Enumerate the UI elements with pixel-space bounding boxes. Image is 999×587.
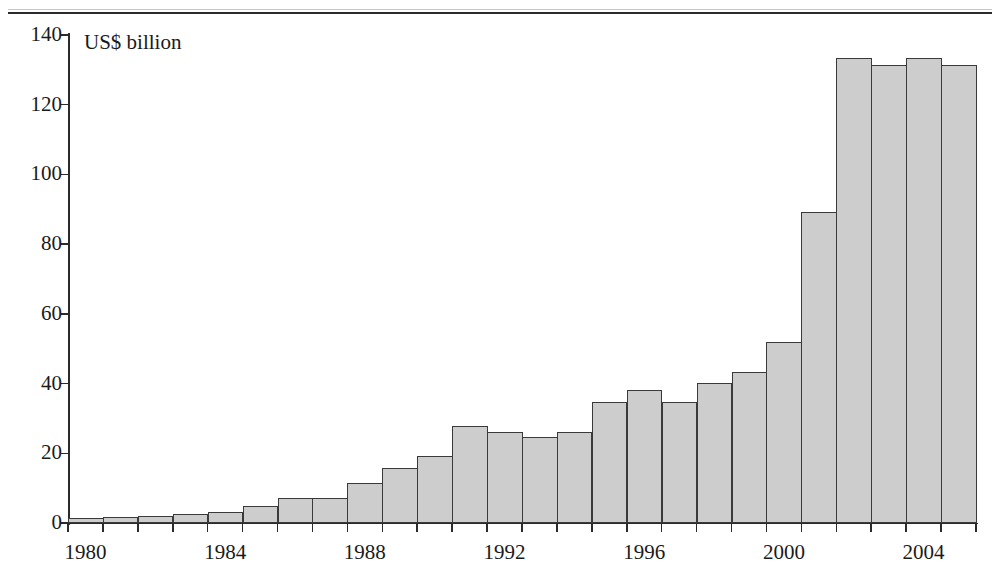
y-tick-mark <box>61 243 69 245</box>
y-tick-label: 120 <box>0 94 62 115</box>
x-tick-mark <box>382 523 384 532</box>
bar <box>522 437 558 523</box>
x-tick-label: 2004 <box>903 541 945 563</box>
x-tick-mark <box>801 523 803 532</box>
bar <box>417 456 453 523</box>
x-tick-mark <box>766 523 768 532</box>
bar <box>243 506 279 523</box>
x-tick-label: 1984 <box>204 541 246 563</box>
figure-container: US$ billion 020406080100120140 198019841… <box>0 0 999 587</box>
x-tick-mark <box>207 523 209 532</box>
y-tick-label: 140 <box>0 24 62 45</box>
bar <box>138 516 174 523</box>
bar <box>592 402 628 523</box>
y-axis-line <box>68 33 70 525</box>
bar <box>801 212 837 523</box>
x-tick-mark <box>416 523 418 532</box>
bar <box>662 402 698 523</box>
bar <box>208 512 244 523</box>
x-tick-mark <box>591 523 593 532</box>
y-tick-label: 0 <box>0 512 62 533</box>
bar <box>487 432 523 523</box>
y-tick-label: 80 <box>0 233 62 254</box>
y-tick-mark <box>61 34 69 36</box>
bar <box>941 65 977 523</box>
bar <box>452 426 488 523</box>
bar <box>312 498 348 523</box>
bar <box>382 468 418 523</box>
unit-annotation: US$ billion <box>84 31 181 53</box>
x-tick-label: 1996 <box>623 541 665 563</box>
x-tick-mark <box>312 523 314 532</box>
bar <box>627 390 663 523</box>
x-tick-label: 1980 <box>64 541 106 563</box>
bar <box>836 58 872 523</box>
x-tick-mark <box>102 523 104 532</box>
y-tick-label: 40 <box>0 373 62 394</box>
x-tick-mark <box>905 523 907 532</box>
bar <box>278 498 314 523</box>
bar <box>557 432 593 523</box>
y-tick-label: 60 <box>0 303 62 324</box>
x-tick-mark <box>975 523 977 532</box>
x-tick-mark <box>870 523 872 532</box>
x-tick-mark <box>451 523 453 532</box>
bar <box>697 383 733 523</box>
x-tick-mark <box>661 523 663 532</box>
x-tick-mark <box>242 523 244 532</box>
page-rule <box>8 12 992 14</box>
x-tick-mark <box>696 523 698 532</box>
x-tick-label: 2000 <box>763 541 805 563</box>
x-tick-mark <box>731 523 733 532</box>
y-tick-mark <box>61 174 69 176</box>
bar <box>871 65 907 523</box>
x-tick-mark <box>67 523 69 532</box>
x-tick-mark <box>172 523 174 532</box>
x-tick-label: 1992 <box>484 541 526 563</box>
x-tick-mark <box>626 523 628 532</box>
y-tick-mark <box>61 313 69 315</box>
bar <box>347 483 383 523</box>
x-tick-mark <box>556 523 558 532</box>
page-rule-faint <box>8 9 992 10</box>
bar <box>906 58 942 523</box>
x-tick-mark <box>940 523 942 532</box>
x-tick-mark <box>137 523 139 532</box>
bar <box>68 518 104 523</box>
x-tick-mark <box>486 523 488 532</box>
x-tick-mark <box>347 523 349 532</box>
y-tick-mark <box>61 104 69 106</box>
x-tick-mark <box>277 523 279 532</box>
bar <box>732 372 768 523</box>
bar <box>103 517 139 523</box>
bar <box>173 514 209 523</box>
x-tick-mark <box>521 523 523 532</box>
y-tick-label: 20 <box>0 442 62 463</box>
x-tick-mark <box>836 523 838 532</box>
bar <box>766 342 802 523</box>
y-tick-mark <box>61 453 69 455</box>
y-tick-mark <box>61 383 69 385</box>
y-tick-label: 100 <box>0 163 62 184</box>
x-tick-label: 1988 <box>344 541 386 563</box>
